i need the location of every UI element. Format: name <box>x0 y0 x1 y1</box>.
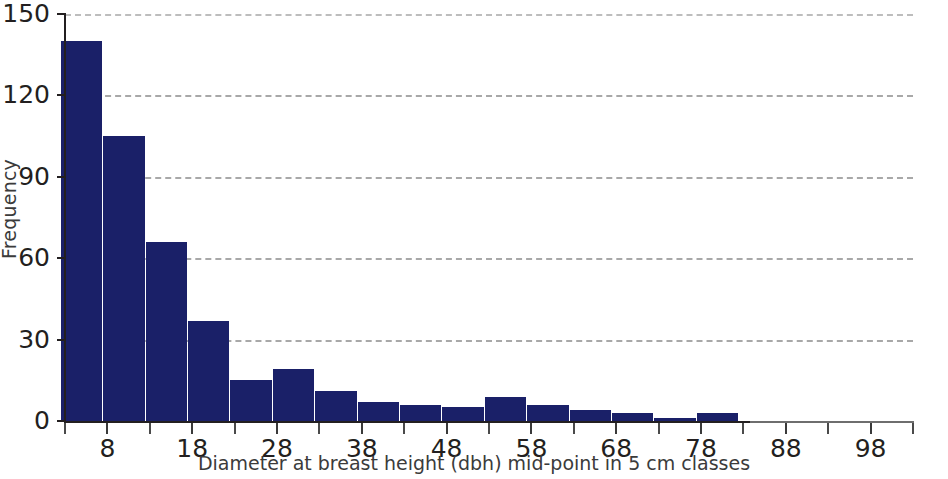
x-tick-mark-23 <box>234 423 236 434</box>
y-tick-mark-90 <box>57 176 65 178</box>
x-tick-mark-48 <box>446 423 448 434</box>
bar <box>273 369 314 421</box>
y-tick-label-150: 150 <box>0 1 50 26</box>
bar <box>485 397 526 421</box>
x-tick-mark-58 <box>530 423 532 434</box>
bar <box>61 41 102 421</box>
y-tick-mark-30 <box>57 339 65 341</box>
y-tick-label-0: 0 <box>0 408 50 433</box>
x-tick-mark-88 <box>785 423 787 434</box>
x-tick-mark-63 <box>573 423 575 434</box>
x-tick-mark-33 <box>318 423 320 434</box>
bar <box>400 405 441 421</box>
y-axis-title: Frequency <box>0 59 20 359</box>
bar <box>442 407 483 421</box>
x-axis-line-dark-segment <box>64 421 750 423</box>
bar <box>612 413 653 421</box>
bar <box>315 391 356 421</box>
y-tick-mark-120 <box>57 94 65 96</box>
x-tick-mark-18 <box>191 423 193 434</box>
x-tick-mark-93 <box>827 423 829 434</box>
x-tick-mark-8 <box>106 423 108 434</box>
y-tick-mark-60 <box>57 257 65 259</box>
y-tick-mark-150 <box>57 13 65 15</box>
x-tick-mark-43 <box>403 423 405 434</box>
x-tick-mark-53 <box>488 423 490 434</box>
bar <box>358 402 399 421</box>
bar <box>527 405 568 421</box>
y-tick-mark-0 <box>57 420 65 422</box>
x-tick-mark-73 <box>658 423 660 434</box>
x-tick-mark-68 <box>615 423 617 434</box>
x-tick-mark-78 <box>700 423 702 434</box>
x-axis-title: Diameter at breast height (dbh) mid-poin… <box>0 452 948 474</box>
x-tick-mark-103 <box>912 423 914 434</box>
histogram-chart: 0306090120150 Frequency 8182838485868788… <box>0 0 948 479</box>
x-tick-mark-28 <box>276 423 278 434</box>
bar <box>146 242 187 421</box>
bar <box>697 413 738 421</box>
x-tick-mark-98 <box>870 423 872 434</box>
bar <box>230 380 271 421</box>
x-tick-mark-13 <box>149 423 151 434</box>
x-tick-mark-3 <box>64 423 66 434</box>
x-tick-mark-38 <box>361 423 363 434</box>
bars-group <box>65 14 913 421</box>
y-axis-line <box>64 13 66 422</box>
bar <box>188 321 229 421</box>
bar <box>570 410 611 421</box>
bar <box>103 136 144 421</box>
x-tick-mark-83 <box>742 423 744 434</box>
